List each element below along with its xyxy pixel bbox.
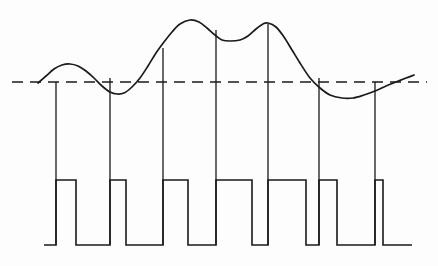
analog-signal-curve [38,20,414,98]
waveform-figure [0,0,438,266]
waveform-canvas [0,0,438,266]
pwm-pulse-train [44,180,412,245]
